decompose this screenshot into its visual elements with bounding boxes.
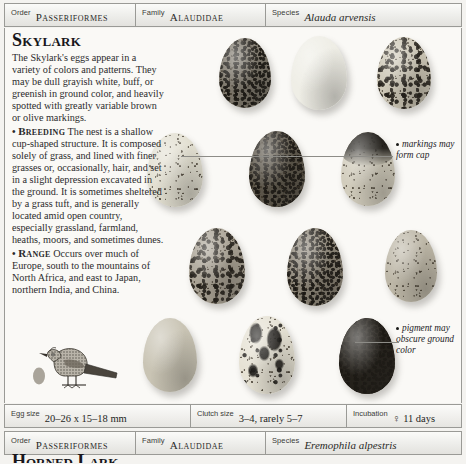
clutch-size-label: Clutch size	[197, 409, 234, 418]
egg-specimen	[143, 318, 197, 392]
bird-svg	[24, 336, 128, 394]
leader-line-markings	[181, 156, 393, 157]
egg-specimen	[239, 316, 295, 394]
egg-shading	[377, 37, 431, 109]
egg-specimen	[385, 230, 437, 302]
egg-shading	[385, 230, 437, 302]
breeding-heading: Breeding	[18, 125, 65, 137]
breeding-bullet: •	[12, 126, 16, 137]
incubation-label: Incubation	[353, 409, 388, 418]
range-bullet: •	[12, 248, 16, 259]
order-value: Passeriformes	[36, 11, 108, 23]
egg-shading	[291, 36, 347, 110]
egg-specimen	[339, 318, 395, 394]
egg-shading	[249, 131, 305, 207]
family-value: Alaudidae	[170, 11, 224, 23]
leader-line-pigment	[355, 342, 399, 343]
egg-specimen	[189, 228, 245, 304]
taxonomy-cell-family: Family Alaudidae	[136, 4, 266, 26]
egg-data-strip: Egg size 20–26 x 15–18 mm Clutch size 3–…	[4, 404, 462, 428]
article-intro: The Skylark's eggs appear in a variety o…	[12, 52, 164, 125]
egg-specimen	[377, 37, 431, 109]
egg-specimen	[341, 132, 395, 206]
egg-shading	[219, 38, 271, 108]
taxonomy-cell-order-next: Order Passeriformes	[5, 432, 136, 454]
taxonomy-header-top: Order Passeriformes Family Alaudidae Spe…	[4, 3, 462, 27]
markings-cap-callout-text: markings may form cap	[396, 139, 454, 160]
field-guide-page: Order Passeriformes Family Alaudidae Spe…	[0, 0, 466, 464]
taxonomy-cell-species-next: Species Eremophila alpestris	[266, 432, 461, 454]
article-text-column: Skylark The Skylark's eggs appear in a v…	[12, 31, 164, 296]
taxonomy-cell-family-next: Family Alaudidae	[136, 432, 266, 454]
pigment-obscure-callout-text: pigment may obscure ground color	[396, 323, 454, 355]
breeding-text: The nest is a shallow cup-shaped structu…	[12, 126, 163, 246]
incubation-value: ♀ 11 days	[393, 413, 435, 424]
article-body: The Skylark's eggs appear in a variety o…	[12, 52, 164, 296]
pigment-obscure-callout: pigment may obscure ground color	[396, 323, 466, 356]
order-label: Order	[11, 8, 31, 17]
section-range: • Range Occurs over much of Europe, sout…	[12, 247, 164, 296]
egg-specimen	[291, 36, 347, 110]
callout-dot-icon	[396, 143, 399, 146]
data-cell-clutch-size: Clutch size 3–4, rarely 5–7	[191, 405, 347, 427]
callout-dot-icon	[396, 327, 399, 330]
egg-shading	[189, 228, 245, 304]
egg-specimen	[287, 228, 343, 306]
egg-shading	[143, 318, 197, 392]
clutch-size-value: 3–4, rarely 5–7	[239, 413, 303, 424]
species-label-next: Species	[272, 436, 299, 445]
skylark-bird-illustration	[24, 336, 128, 394]
range-heading: Range	[18, 247, 51, 259]
species-label: Species	[272, 8, 299, 17]
taxonomy-cell-order: Order Passeriformes	[5, 4, 136, 26]
species-value-next: Eremophila alpestris	[304, 439, 396, 451]
page-title: Skylark	[12, 31, 164, 49]
order-value-next: Passeriformes	[36, 439, 108, 451]
egg-size-label: Egg size	[11, 409, 40, 418]
egg-shading	[339, 318, 395, 394]
egg-shading	[239, 316, 295, 394]
markings-cap-callout: markings may form cap	[396, 139, 466, 161]
scale-egg-icon	[33, 368, 45, 385]
family-value-next: Alaudidae	[170, 439, 224, 451]
next-entry-title: Horned Lark	[12, 452, 212, 463]
family-label: Family	[142, 8, 165, 17]
family-label-next: Family	[142, 436, 165, 445]
egg-specimen	[249, 131, 305, 207]
order-label-next: Order	[11, 436, 31, 445]
data-cell-incubation: Incubation ♀ 11 days	[347, 405, 461, 427]
egg-specimen	[219, 38, 271, 108]
species-value: Alauda arvensis	[304, 11, 375, 23]
egg-shading	[287, 228, 343, 306]
egg-size-value: 20–26 x 15–18 mm	[45, 413, 127, 424]
data-cell-egg-size: Egg size 20–26 x 15–18 mm	[5, 405, 191, 427]
section-breeding: • Breeding The nest is a shallow cup-sha…	[12, 125, 164, 247]
taxonomy-cell-species: Species Alauda arvensis	[266, 4, 461, 26]
